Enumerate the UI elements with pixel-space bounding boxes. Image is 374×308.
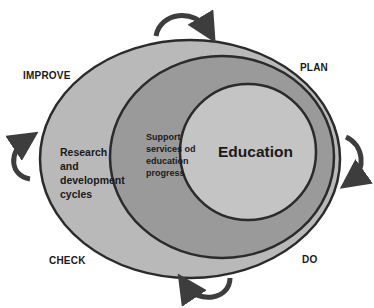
middle-ring-label-line: education — [146, 155, 206, 167]
arrow-top-icon — [156, 16, 208, 36]
arrow-right-icon — [346, 137, 361, 180]
middle-ring-label-line: services od — [146, 143, 206, 155]
arrow-left-icon — [14, 140, 30, 179]
arrow-bottom-icon — [186, 278, 230, 297]
phase-plan: PLAN — [300, 62, 328, 73]
phase-check: CHECK — [49, 255, 86, 266]
middle-ring-label-line: Support — [146, 131, 206, 143]
phase-do: DO — [302, 254, 317, 265]
outer-ring-label: Research and development cycles — [60, 145, 140, 201]
outer-ring-label-line: and — [60, 159, 140, 173]
outer-ring-label-line: development — [60, 173, 140, 187]
center-label: Education — [218, 143, 293, 161]
middle-ring-label: Support services od education progress — [146, 131, 206, 179]
outer-ring-label-line: cycles — [60, 187, 140, 201]
middle-ring-label-line: progress — [146, 167, 206, 179]
phase-improve: IMPROVE — [23, 70, 71, 81]
outer-ring-label-line: Research — [60, 145, 140, 159]
